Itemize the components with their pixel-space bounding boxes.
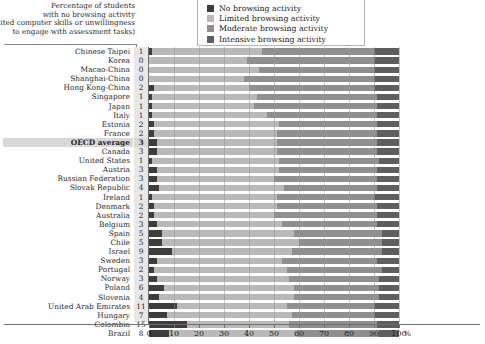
country-label: Slovenia [3, 293, 133, 302]
table-row: France2 [0, 129, 485, 138]
x-tick [299, 324, 300, 328]
bar-segment [149, 276, 157, 282]
bar-segment [294, 294, 379, 300]
legend-item-moderate-browsing: Moderate browsing activity [207, 24, 364, 34]
bar-segment [149, 248, 172, 254]
bar-segment [379, 285, 399, 291]
country-label: Poland [3, 283, 133, 292]
stacked-bar [149, 103, 399, 109]
x-tick [349, 324, 350, 328]
country-label: United Arab Emirates [3, 302, 133, 311]
x-tick [324, 324, 325, 328]
country-label: Singapore [3, 92, 133, 101]
x-tick [174, 324, 175, 328]
bar-segment [377, 103, 400, 109]
bar-segment [152, 48, 262, 54]
bar-segment [294, 230, 382, 236]
stacked-bar [149, 85, 399, 91]
table-row: Australia2 [0, 211, 485, 220]
bar-segment [382, 267, 400, 273]
bar-segment [149, 185, 159, 191]
x-tick-label: 0 [146, 329, 151, 339]
table-row: Israel9 [0, 247, 485, 256]
stacked-bar [149, 130, 399, 136]
no-browsing-value: 3 [134, 274, 148, 283]
no-browsing-value: 4 [134, 183, 148, 192]
legend-swatch-icon [207, 5, 214, 12]
bar-segment [154, 121, 279, 127]
country-label: Austria [3, 165, 133, 174]
x-tick-label: 10 [169, 329, 179, 339]
table-row: United Arab Emirates11 [0, 302, 485, 311]
bar-segment [374, 194, 399, 200]
table-row: Ireland1 [0, 193, 485, 202]
legend-item-no-browsing: No browsing activity [207, 3, 364, 13]
table-row: Norway3 [0, 274, 485, 283]
bar-segment [154, 130, 277, 136]
bar-segment [277, 130, 377, 136]
bar-segment [379, 294, 399, 300]
legend-label: Limited browsing activity [219, 14, 320, 23]
bar-segment [277, 148, 377, 154]
bar-segment [379, 276, 399, 282]
stacked-bar [149, 112, 399, 118]
bar-segment [149, 239, 162, 245]
bar-segment [149, 258, 157, 264]
bar-segment [152, 194, 277, 200]
bar-segment [154, 267, 287, 273]
stacked-bar [149, 158, 399, 164]
table-row: Hong Kong-China2 [0, 83, 485, 92]
table-row: Canada3 [0, 147, 485, 156]
bar-segment [377, 139, 400, 145]
legend-label: No browsing activity [219, 4, 301, 13]
stacked-bar [149, 94, 399, 100]
stacked-bar [149, 203, 399, 209]
x-tick-label: 40 [244, 329, 254, 339]
bar-segment [377, 130, 400, 136]
bar-segment [279, 167, 377, 173]
table-row: Slovak Republic4 [0, 183, 485, 192]
bar-segment [374, 67, 399, 73]
bar-segment [157, 139, 277, 145]
stacked-bar [149, 121, 399, 127]
bar-segment [282, 258, 377, 264]
bar-segment [157, 176, 275, 182]
bar-segment [149, 230, 162, 236]
bar-rows: Chinese Taipei1Korea0Macao-China0Shangha… [0, 47, 485, 338]
x-tick-label: 90 [369, 329, 379, 339]
bar-segment [152, 158, 280, 164]
stacked-bar [149, 176, 399, 182]
x-tick-label: 70 [319, 329, 329, 339]
bar-segment [267, 112, 377, 118]
bar-segment [374, 312, 399, 318]
bar-segment [162, 239, 300, 245]
stacked-bar [149, 239, 399, 245]
bar-segment [149, 139, 157, 145]
country-label: Portugal [3, 265, 133, 274]
x-axis-labels: % 0102030405060708090100 [0, 329, 485, 341]
no-browsing-value: 1 [134, 102, 148, 111]
stacked-bar [149, 258, 399, 264]
no-browsing-value: 0 [134, 65, 148, 74]
bar-segment [157, 276, 290, 282]
bar-segment [149, 57, 247, 63]
country-label: Italy [3, 111, 133, 120]
legend-item-limited-browsing: Limited browsing activity [207, 13, 364, 23]
bar-segment [374, 85, 399, 91]
country-label: Ireland [3, 193, 133, 202]
x-tick-label: 50 [269, 329, 279, 339]
bar-segment [377, 148, 400, 154]
no-browsing-value: 3 [134, 174, 148, 183]
no-browsing-value: 2 [134, 265, 148, 274]
stacked-bar [149, 194, 399, 200]
bar-segment [292, 312, 375, 318]
bar-segment [149, 167, 157, 173]
no-browsing-value: 0 [134, 74, 148, 83]
country-label: Sweden [3, 256, 133, 265]
x-tick [199, 324, 200, 328]
stacked-bar [149, 221, 399, 227]
bar-segment [159, 185, 284, 191]
table-row: Denmark2 [0, 202, 485, 211]
legend-swatch-icon [207, 36, 214, 43]
bar-segment [244, 76, 374, 82]
